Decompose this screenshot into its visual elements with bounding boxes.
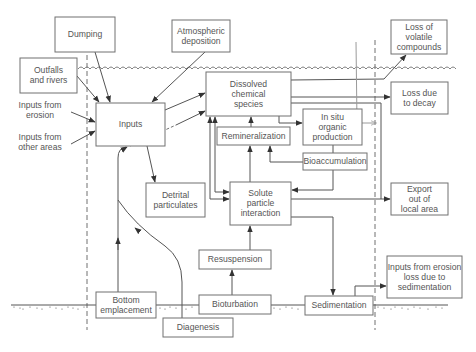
box-label-line: compounds — [397, 42, 441, 52]
arrow-atmospheric-to-inputs — [152, 52, 205, 102]
box-label-line: Bioaccumulation — [303, 156, 366, 166]
sediment-dot — [390, 308, 391, 309]
sediment-dot — [83, 306, 84, 307]
box-label-line: local area — [401, 204, 438, 214]
box-label-line: Dissolved — [230, 79, 267, 89]
sediment-dot — [441, 307, 442, 308]
arrow-bottom-emplacement-to-inputs — [118, 147, 126, 292]
sediment-dot — [285, 306, 286, 307]
sediment-dot — [401, 307, 402, 308]
arrow-bioaccumulation-to-solute — [292, 170, 333, 190]
arrow-outfalls-to-inputs — [77, 76, 99, 102]
box-label-line: Bottom — [112, 295, 139, 305]
sediment-dot — [159, 307, 160, 308]
box-label-line: In situ — [321, 112, 344, 122]
box-label-line: sedimentation — [398, 282, 452, 292]
sediment-dot — [191, 306, 192, 307]
sediment-dot — [164, 308, 165, 309]
box-label-line: Inputs from erosion — [388, 262, 462, 272]
sediment-dot — [435, 306, 436, 307]
box-bioturbation: Bioturbation — [199, 295, 271, 314]
sediment-dot — [279, 308, 280, 309]
sediment-dot — [72, 307, 73, 308]
sediment-dot — [291, 307, 292, 308]
box-label-line: Detrital — [162, 190, 189, 200]
arrow-dumping-to-inputs — [95, 52, 110, 102]
box-sedimentation: Sedimentation — [305, 296, 373, 315]
box-label-line: Outfalls — [34, 65, 63, 75]
sediment-dot — [273, 307, 274, 308]
box-loss-volatile: Loss ofvolatilecompounds — [391, 20, 447, 54]
sediment-dot — [297, 308, 298, 309]
box-export: Exportout oflocal area — [391, 183, 448, 215]
sediment-dot — [394, 306, 395, 307]
arrowhead-diagenesis — [135, 228, 140, 232]
arrow-solute-to-sedimentation — [291, 217, 333, 295]
box-label-line: to decay — [403, 98, 436, 108]
sediment-dot — [55, 307, 56, 308]
arrow-dissolved-to-insitu — [279, 116, 302, 123]
arrow-erosion-to-inputs — [71, 112, 95, 122]
box-label-line: Sedimentation — [312, 300, 367, 310]
box-label-line: interaction — [241, 208, 281, 218]
box-label-line: out of — [409, 194, 431, 204]
free-labels: Inputs fromerosionInputs fromother areas — [18, 100, 61, 152]
box-label-line: Diagenesis — [177, 322, 220, 332]
box-label-line: loss due to — [404, 272, 446, 282]
arrow-bioaccumulation-to-remineralization — [270, 146, 303, 162]
sediment-dot — [49, 306, 50, 307]
box-label-line: Bioturbation — [212, 299, 258, 309]
box-label-line: species — [234, 99, 263, 109]
label-inputs-other: Inputs from — [19, 132, 62, 142]
box-solute-particle: Soluteparticleinteraction — [230, 182, 291, 225]
box-loss-decay: Loss dueto decay — [391, 82, 448, 114]
sediment-dot — [67, 306, 68, 307]
label-inputs-erosion: Inputs from — [19, 100, 62, 110]
sediment-dot — [77, 308, 78, 309]
box-label-line: Export — [407, 184, 432, 194]
box-bioaccumulation: Bioaccumulation — [303, 153, 367, 170]
box-label-line: deposition — [181, 36, 220, 46]
label-inputs-other: other areas — [18, 142, 61, 152]
arrow-other-areas-to-inputs — [71, 131, 95, 144]
process-boxes: DumpingAtmosphericdepositionOutfallsand … — [20, 17, 462, 337]
box-label-line: and rivers — [30, 75, 68, 85]
box-bottom-emplacement: Bottomemplacement — [96, 292, 156, 318]
sediment-dot — [407, 308, 408, 309]
box-erosion-sedimentation: Inputs from erosionloss due tosedimentat… — [387, 256, 462, 298]
box-in-situ: In situorganicproduction — [303, 109, 362, 145]
box-label-line: emplacement — [100, 305, 152, 315]
arrow-inputs-to-dissolved-1 — [165, 93, 205, 110]
arrow-inputs-to-dissolved-2 — [176, 111, 205, 125]
water-surface-wave — [78, 67, 456, 69]
box-label-line: volatile — [406, 32, 433, 42]
sediment-dot — [383, 307, 384, 308]
box-label-line: Loss due — [402, 88, 437, 98]
box-atmospheric-deposition: Atmosphericdeposition — [172, 20, 230, 52]
box-label-line: organic — [318, 122, 347, 132]
box-label-line: Remineralization — [221, 131, 285, 141]
sediment-dot — [19, 307, 20, 308]
sediment-dot — [175, 307, 176, 308]
box-label-line: Resuspension — [208, 254, 263, 264]
sediment-dot — [169, 306, 170, 307]
pollutant-fate-diagram: DumpingAtmosphericdepositionOutfallsand … — [0, 0, 476, 352]
box-remineralization: Remineralization — [217, 127, 290, 145]
box-label-line: Solute — [248, 188, 273, 198]
sediment-dot — [61, 308, 62, 309]
box-outfalls-rivers: Outfallsand rivers — [20, 58, 77, 93]
sediment-dot — [41, 308, 42, 309]
arrow-sedimentation-to-erosion-box — [355, 286, 386, 296]
box-label-line: chemical — [232, 89, 266, 99]
box-label-line: Atmospheric — [177, 26, 225, 36]
label-inputs-erosion: erosion — [26, 110, 54, 120]
box-detrital: Detritalparticulates — [146, 183, 205, 217]
sediment-dot — [29, 306, 30, 307]
box-diagenesis: Diagenesis — [163, 318, 233, 337]
box-label-line: Loss of — [405, 22, 433, 32]
arrow-inputs-to-detrital — [147, 146, 155, 182]
sediment-dot — [377, 306, 378, 307]
box-label-line: Dumping — [68, 29, 103, 39]
sediment-dot — [413, 306, 414, 307]
box-label-line: particulates — [154, 200, 198, 210]
